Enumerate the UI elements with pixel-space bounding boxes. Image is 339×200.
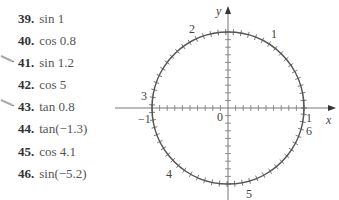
radian-label-4: 4 <box>166 167 172 181</box>
right-intercept-label: 1 <box>306 111 312 125</box>
y-axis-label: y <box>215 4 222 18</box>
y-axis-arrow-icon <box>225 6 231 14</box>
left-intercept-label: −1 <box>138 112 151 126</box>
radian-label-6: 6 <box>306 124 312 138</box>
unit-circle-figure: x y 0 −1 1 1 2 3 4 5 6 <box>0 0 339 200</box>
coordinate-axes <box>115 6 336 200</box>
origin-label: 0 <box>217 110 223 124</box>
radian-label-3: 3 <box>141 89 147 103</box>
x-axis-arrow-icon <box>328 105 336 111</box>
radian-label-1: 1 <box>271 27 277 41</box>
radian-label-5: 5 <box>246 187 252 200</box>
radian-label-2: 2 <box>189 22 195 36</box>
x-axis-label: x <box>325 113 332 127</box>
